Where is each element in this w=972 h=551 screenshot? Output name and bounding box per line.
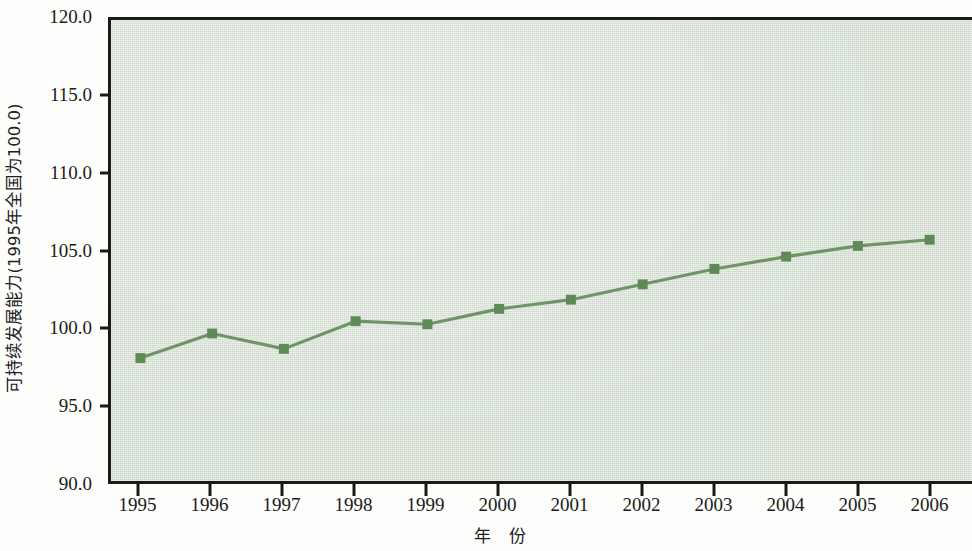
- data-point-marker: 1996: 99.6: [207, 329, 217, 339]
- data-point-marker: 1997: 98.6: [279, 344, 289, 354]
- data-point-marker: 2005: 105.3: [853, 241, 863, 251]
- x-axis-tick-label: 2001: [551, 494, 589, 516]
- y-axis-title: 可持续发展能力(1995年全国为100.0): [0, 0, 26, 495]
- data-point-marker: 1999: 100.2: [422, 319, 432, 329]
- x-axis-title: 年 份: [108, 522, 898, 547]
- plot-area: 1995: 981996: 99.61997: 98.61998: 100.41…: [108, 17, 972, 484]
- data-point-marker: 2004: 104.6: [781, 252, 791, 262]
- x-axis-tick-label: 1997: [263, 494, 301, 516]
- data-series-svg: 1995: 981996: 99.61997: 98.61998: 100.41…: [111, 20, 972, 481]
- x-axis-tick-label: 2002: [623, 494, 661, 516]
- y-axis-tick-label: 95.0: [59, 395, 92, 417]
- y-axis-tick-label: 120.0: [49, 6, 92, 28]
- y-axis-tick-label: 90.0: [59, 473, 92, 495]
- sustainable-development-line-chart: 可持续发展能力(1995年全国为100.0) 120.0115.0110.010…: [0, 0, 972, 551]
- data-point-marker: 2000: 101.2: [494, 304, 504, 314]
- data-point-marker: 2002: 102.8: [638, 279, 648, 289]
- data-point-marker: 1998: 100.4: [351, 316, 361, 326]
- x-axis-tick-label: 1995: [119, 494, 157, 516]
- data-point-marker: 2006: 105.7: [925, 235, 935, 245]
- series-line: [140, 240, 929, 358]
- y-axis-tick-label: 115.0: [50, 84, 92, 106]
- x-axis-tick-label: 2006: [911, 494, 949, 516]
- y-axis-tick-label: 110.0: [50, 162, 92, 184]
- x-axis-tick-label: 2005: [839, 494, 877, 516]
- x-axis-tick-label: 2000: [479, 494, 517, 516]
- x-axis-tick-label-group: 1995199619971998199920002001200220032004…: [108, 494, 972, 524]
- y-axis-tick-label: 105.0: [49, 240, 92, 262]
- x-axis-tick-label: 2004: [767, 494, 805, 516]
- y-axis-tick-label: 100.0: [49, 317, 92, 339]
- y-axis-tick-label-group: 120.0115.0110.0105.0100.095.090.0: [26, 0, 98, 500]
- data-point-marker: 2001: 101.8: [566, 295, 576, 305]
- x-axis-tick-label: 1998: [335, 494, 373, 516]
- x-axis-tick-label: 2003: [695, 494, 733, 516]
- x-axis-title-label: 年 份: [474, 526, 531, 546]
- y-axis-title-label: 可持续发展能力(1995年全国为100.0): [1, 103, 25, 392]
- x-axis-tick-label: 1996: [191, 494, 229, 516]
- data-point-marker: 1995: 98: [135, 353, 145, 363]
- x-axis-tick-label: 1999: [407, 494, 445, 516]
- data-point-marker: 2003: 103.8: [709, 264, 719, 274]
